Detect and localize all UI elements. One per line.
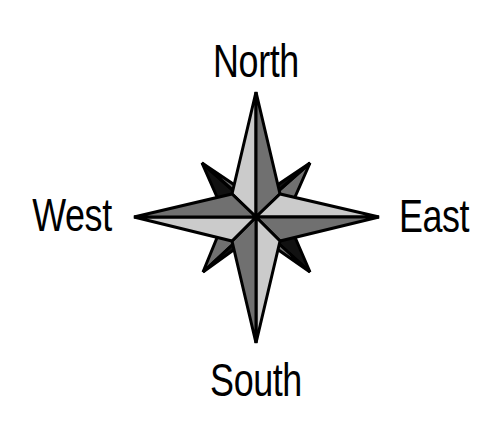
east-label: East xyxy=(390,193,477,239)
north-arm xyxy=(232,92,280,217)
north-label: North xyxy=(197,38,316,84)
west-arm xyxy=(134,194,256,241)
west-label: West xyxy=(25,192,119,238)
south-label: South xyxy=(197,357,316,403)
